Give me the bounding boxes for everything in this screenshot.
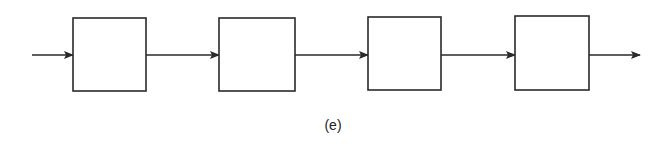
block-2 <box>219 18 295 91</box>
figure-caption: (e) <box>0 117 666 133</box>
block-4 <box>515 16 589 90</box>
block-1 <box>73 18 146 91</box>
block-3 <box>368 17 441 90</box>
